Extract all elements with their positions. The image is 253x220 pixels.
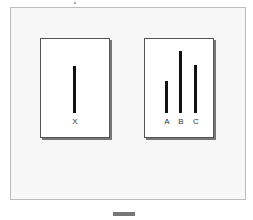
label-a: A: [161, 117, 173, 126]
line-x: [73, 66, 76, 113]
label-b: B: [175, 117, 187, 126]
line-a: [165, 81, 168, 113]
standard-line-card: X: [40, 38, 110, 138]
label-c: C: [190, 117, 202, 126]
line-c: [194, 65, 197, 113]
diagram-frame: X A B C: [10, 7, 246, 200]
label-x: X: [69, 117, 81, 126]
figure-caption-mark: [113, 212, 135, 216]
top-mark: [74, 2, 76, 4]
line-b: [179, 51, 182, 113]
comparison-lines-card: A B C: [144, 38, 214, 138]
